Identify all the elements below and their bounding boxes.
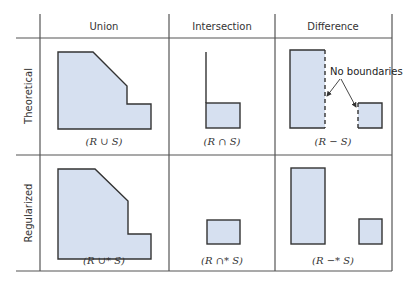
difference-shape-theoretical-right xyxy=(358,103,382,128)
difference-shape-theoretical-left xyxy=(290,50,325,128)
union-shape-regularized xyxy=(58,169,151,259)
intersection-shape-regularized xyxy=(207,220,240,244)
column-header-union: Union xyxy=(90,21,119,32)
annotation-arrow-left xyxy=(327,79,340,96)
row-label-theoretical: Theoretical xyxy=(23,68,34,125)
column-header-intersection: Intersection xyxy=(192,21,252,32)
difference-shape-regularized-left xyxy=(291,168,325,244)
caption-difference-regularized: (R −* S) xyxy=(312,255,354,266)
caption-union-regularized: (R ∪* S) xyxy=(83,255,125,266)
difference-shape-regularized-right xyxy=(359,219,382,244)
caption-intersection-regularized: (R ∩* S) xyxy=(201,255,243,266)
set-operations-diagram: Union Intersection Difference Theoretica… xyxy=(0,0,410,282)
union-shape-theoretical xyxy=(58,52,151,129)
annotation-arrow-right xyxy=(341,79,356,107)
intersection-shape-theoretical xyxy=(206,103,240,128)
caption-difference-theoretical: (R − S) xyxy=(315,136,352,147)
annotation-no-boundaries: No boundaries xyxy=(330,66,403,77)
column-header-difference: Difference xyxy=(307,21,359,32)
caption-union-theoretical: (R ∪ S) xyxy=(86,136,123,147)
row-label-regularized: Regularized xyxy=(23,184,34,243)
caption-intersection-theoretical: (R ∩ S) xyxy=(204,136,241,147)
